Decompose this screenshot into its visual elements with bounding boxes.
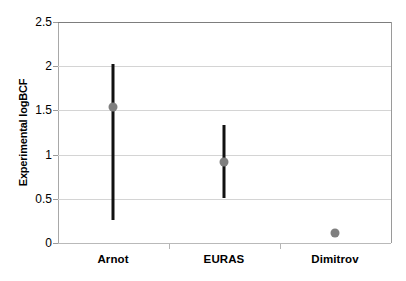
data-point-dimitrov [331, 229, 340, 238]
gridline-0.5 [58, 199, 391, 200]
x-tick-mark-2 [280, 244, 281, 249]
gridline-2.5 [58, 22, 391, 23]
x-tick-mark-1 [169, 244, 170, 249]
x-category-label-arnot: Arnot [97, 253, 128, 265]
y-tick-label-2: 2 [22, 59, 52, 73]
x-category-label-dimitrov: Dimitrov [311, 253, 358, 265]
gridline-1.5 [58, 110, 391, 111]
y-tick-label-2.5: 2.5 [22, 15, 52, 29]
y-axis-tick-labels: 2.5 2 1.5 1 0.5 0 [22, 0, 52, 281]
data-point-euras [220, 157, 229, 166]
gridline-0 [58, 243, 391, 244]
gridline-2 [58, 66, 391, 67]
x-category-label-euras: EURAS [204, 253, 245, 265]
error-bar-arnot [112, 64, 115, 220]
data-point-arnot [109, 102, 118, 111]
y-tick-label-0: 0 [22, 236, 52, 250]
chart-container: Experimental logBCF 2.5 2 1.5 1 0.5 0 Ar… [0, 0, 406, 281]
y-tick-label-1.5: 1.5 [22, 103, 52, 117]
y-tick-label-1: 1 [22, 148, 52, 162]
y-tick-label-0.5: 0.5 [22, 192, 52, 206]
